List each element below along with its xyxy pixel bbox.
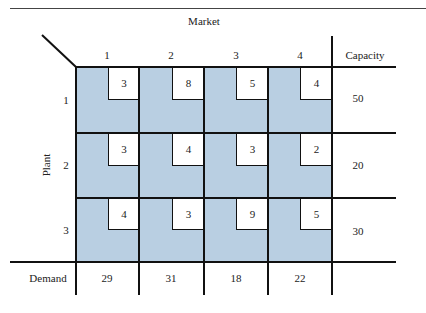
demand-value-2: 31 <box>166 272 177 284</box>
capacity-value-3: 30 <box>353 225 364 237</box>
capacity-value-1: 50 <box>353 92 364 104</box>
capacity-value-2: 20 <box>353 159 364 171</box>
demand-value-3: 18 <box>231 272 242 284</box>
demand-title: Demand <box>29 272 66 284</box>
demand-value-4: 22 <box>295 272 306 284</box>
corner-diagonal <box>0 0 426 313</box>
demand-value-1: 29 <box>102 272 113 284</box>
